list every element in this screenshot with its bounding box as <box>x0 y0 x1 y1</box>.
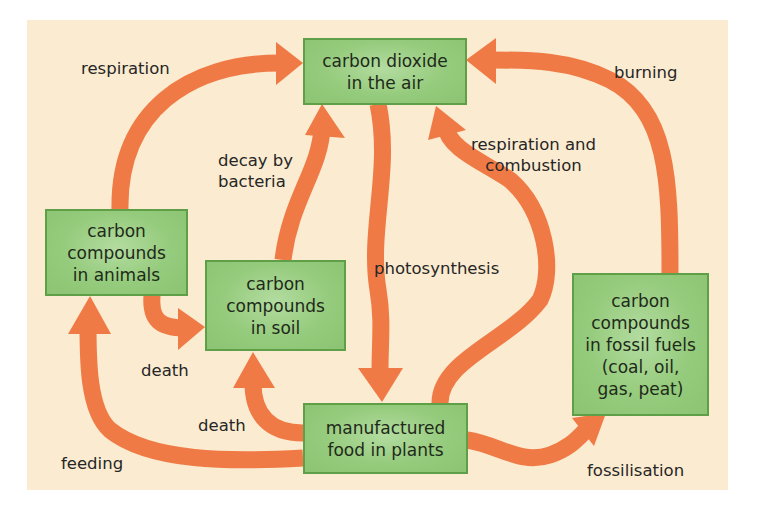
label-respiration: respiration <box>81 58 170 79</box>
arrowhead-respiration-combustion <box>428 106 466 140</box>
node-plants-text: manufactured food in plants <box>326 417 446 461</box>
label-decay: decay by bacteria <box>218 150 293 192</box>
label-feeding: feeding <box>61 453 123 474</box>
arrow-death-plants <box>253 383 303 433</box>
label-respiration-combustion: respiration and combustion <box>471 134 596 176</box>
label-fossilisation: fossilisation <box>587 460 684 481</box>
arrow-photosynthesis <box>375 104 382 372</box>
arrow-decay <box>283 128 322 260</box>
node-animals: carbon compounds in animals <box>45 209 188 296</box>
node-animals-text: carbon compounds in animals <box>67 220 166 286</box>
node-soil-text: carbon compounds in soil <box>226 273 325 339</box>
node-soil: carbon compounds in soil <box>205 260 346 351</box>
label-burning: burning <box>614 62 677 83</box>
arrowhead-burning <box>466 38 496 84</box>
arrowhead-photosynthesis <box>358 368 403 402</box>
label-photosynthesis: photosynthesis <box>374 258 499 279</box>
label-death-plants: death <box>198 415 246 436</box>
node-plants: manufactured food in plants <box>303 403 468 474</box>
label-death-animals: death <box>141 360 189 381</box>
arrowhead-decay <box>305 104 345 138</box>
node-fossil-fuels: carbon compounds in fossil fuels (coal, … <box>572 273 709 416</box>
arrow-fossilisation <box>467 430 586 458</box>
node-fossil-fuels-text: carbon compounds in fossil fuels (coal, … <box>585 290 696 400</box>
arrowhead-respiration <box>276 42 303 85</box>
arrowhead-death-animals <box>178 308 205 350</box>
arrowhead-death-plants <box>233 352 275 388</box>
node-co2-air-text: carbon dioxide in the air <box>322 50 448 94</box>
arrowhead-feeding <box>68 296 111 334</box>
node-co2-air: carbon dioxide in the air <box>303 38 467 105</box>
